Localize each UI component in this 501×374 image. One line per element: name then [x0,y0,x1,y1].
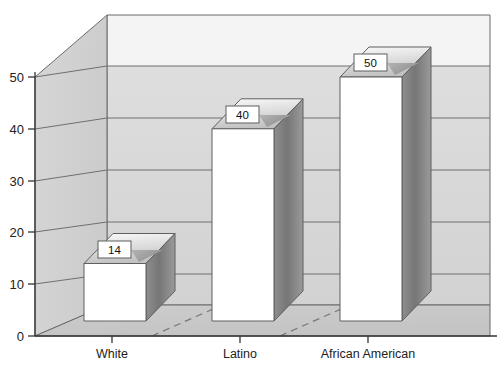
x-category-label-african-american: African American [321,347,416,361]
y-tick-label-30: 30 [10,174,24,189]
bar-african-american[interactable]: 50 [340,47,431,321]
bar-latino-value-label: 40 [236,109,249,121]
bar-white-value-label: 14 [108,244,121,256]
back-wall-upper-band [107,15,490,66]
x-category-label-latino: Latino [223,347,257,361]
y-tick-label-0: 0 [17,329,24,344]
bar-white-front-face [84,264,146,322]
chart-svg: 50 40 30 20 10 0 14 40 [0,0,501,374]
bar-latino-side-face [274,99,303,321]
bar-latino[interactable]: 40 [212,99,303,321]
bar-african-american-side-face [402,47,431,321]
chart-3d-bar: 50 40 30 20 10 0 14 40 [0,0,501,374]
y-tick-label-20: 20 [10,225,24,240]
x-axis: White Latino African American [35,336,497,361]
y-axis: 50 40 30 20 10 0 [10,70,35,344]
bar-african-american-value-label: 50 [364,57,377,69]
bar-african-american-front-face [340,77,402,321]
x-axis-ticks [112,336,368,343]
y-tick-label-40: 40 [10,122,24,137]
x-category-label-white: White [96,347,128,361]
y-tick-label-10: 10 [10,277,24,292]
bar-latino-front-face [212,129,274,321]
y-tick-label-50: 50 [10,70,24,85]
y-axis-ticks [28,77,35,336]
